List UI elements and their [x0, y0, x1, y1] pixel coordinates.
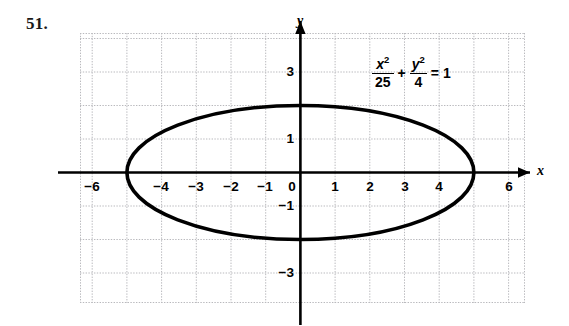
y-tick-label-neg1: −1 — [279, 199, 294, 213]
x-term-numerator: x2 — [374, 57, 391, 73]
x-tick-label-2: 2 — [366, 180, 374, 194]
y-axis-label: y — [297, 13, 303, 29]
y-tick-label-1: 1 — [286, 132, 294, 146]
x-tick-label-1: 1 — [331, 180, 339, 194]
y-tick-label-3: 3 — [286, 65, 294, 79]
y-term-denominator: 4 — [410, 73, 427, 90]
equals-operator: = — [430, 65, 440, 81]
x-tick-label-3: 3 — [401, 180, 409, 194]
graph-plot-area — [80, 33, 525, 303]
x-tick-label-neg3: −3 — [188, 180, 203, 194]
ellipse-graph-figure: 51. — [0, 0, 569, 326]
x-tick-label-6: 6 — [505, 180, 513, 194]
x-tick-label-neg4: −4 — [153, 180, 168, 194]
equation-annotation: x2 25 + y2 4 = 1 — [372, 57, 451, 89]
x-axis-arrowhead — [518, 167, 530, 177]
y-term-fraction: y2 4 — [410, 57, 427, 89]
x-tick-label-zero: 0 — [288, 180, 296, 194]
plus-operator: + — [397, 65, 407, 81]
y-tick-label-neg3: −3 — [279, 266, 294, 280]
x-term-denominator: 25 — [372, 73, 394, 90]
x-tick-label-neg2: −2 — [223, 180, 238, 194]
x-tick-label-neg6: −6 — [84, 180, 99, 194]
x-tick-label-neg1: −1 — [257, 180, 272, 194]
y-term-numerator: y2 — [410, 57, 427, 73]
equation-right-side: 1 — [443, 65, 451, 81]
x-axis-label: x — [537, 163, 544, 179]
x-term-fraction: x2 25 — [372, 57, 394, 89]
x-tick-label-4: 4 — [435, 180, 443, 194]
coordinate-axes — [80, 33, 525, 303]
problem-number: 51. — [26, 14, 48, 34]
